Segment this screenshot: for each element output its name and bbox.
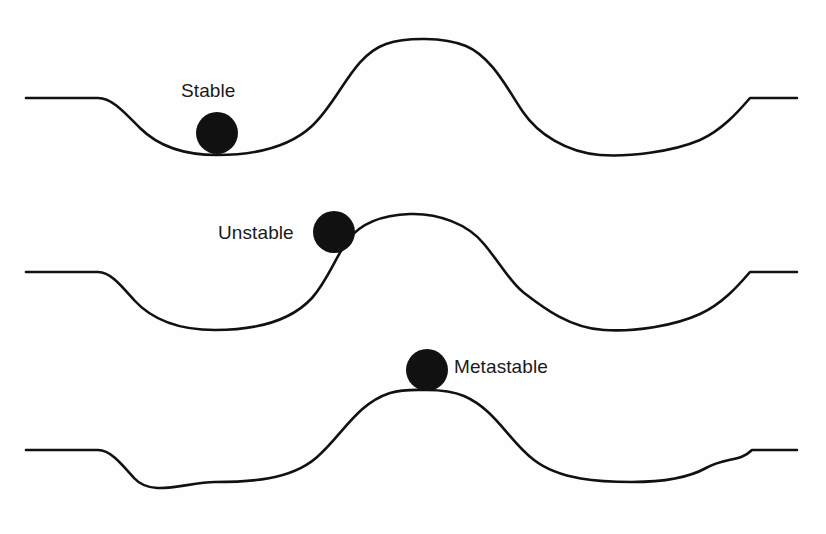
diagram-canvas xyxy=(0,0,826,534)
label-stable: Stable xyxy=(181,80,235,102)
ball-unstable xyxy=(313,211,355,253)
label-metastable: Metastable xyxy=(454,356,548,378)
label-unstable: Unstable xyxy=(218,222,294,244)
stability-diagram-figure: Stable Unstable Metastable xyxy=(0,0,826,534)
ball-metastable xyxy=(406,349,448,391)
ball-stable xyxy=(196,112,238,154)
figure-background xyxy=(0,0,826,534)
